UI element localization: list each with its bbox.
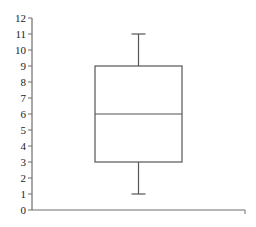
y-axis: 0123456789101112 [15, 12, 32, 216]
y-tick-label: 6 [21, 108, 27, 120]
y-tick-label: 10 [15, 44, 27, 56]
y-tick-label: 2 [21, 172, 27, 184]
box-plot-chart: 0123456789101112 [0, 0, 256, 227]
box [95, 34, 182, 194]
y-tick-label: 5 [21, 124, 27, 136]
y-tick-label: 3 [21, 156, 27, 168]
y-tick-label: 8 [21, 76, 27, 88]
box-plot-series [95, 34, 182, 194]
y-tick-label: 11 [15, 28, 26, 40]
x-axis [32, 210, 245, 214]
y-tick-label: 7 [21, 92, 27, 104]
y-tick-label: 12 [15, 12, 26, 24]
y-tick-label: 4 [21, 140, 27, 152]
y-tick-label: 1 [21, 188, 27, 200]
y-tick-label: 9 [21, 60, 27, 72]
y-tick-label: 0 [21, 204, 27, 216]
